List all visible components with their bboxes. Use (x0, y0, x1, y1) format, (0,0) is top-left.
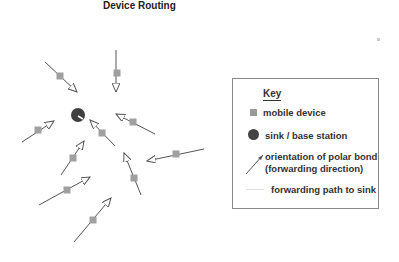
legend: Key mobile device sink / base station or… (232, 78, 379, 209)
mobile-device-icon (99, 130, 106, 137)
legend-label-orientation-sub: (forwarding direction) (265, 163, 363, 175)
legend-heading: Key (263, 88, 281, 101)
mobile-device-icon (64, 187, 71, 194)
mobile-devices (22, 50, 204, 242)
mobile-device-icon (90, 217, 97, 224)
legend-label-orientation: orientation of polar bond (265, 151, 377, 163)
mobile-device (61, 141, 84, 175)
mobile-device (114, 50, 121, 92)
legend-label-sink: sink / base station (265, 130, 347, 142)
circle-icon (248, 129, 259, 140)
mobile-device (147, 149, 204, 161)
line-icon (246, 189, 264, 190)
mobile-device-icon (35, 127, 42, 134)
mobile-device-icon (114, 70, 121, 77)
mobile-device-icon (131, 175, 138, 182)
mobile-device-icon (70, 155, 77, 162)
mobile-device (90, 120, 115, 146)
mobile-device-icon (173, 151, 180, 158)
mobile-device (39, 177, 90, 205)
sink-icon (71, 108, 85, 122)
mobile-device (22, 121, 54, 142)
mobile-device (45, 62, 77, 92)
square-icon (250, 109, 257, 116)
mobile-device (124, 153, 141, 195)
arrow-icon (244, 152, 266, 176)
mobile-device (74, 198, 111, 242)
stray-device-icon (377, 38, 380, 41)
mobile-device-icon (57, 73, 64, 80)
polar-bond-arrow-icon (124, 153, 141, 195)
mobile-device (116, 114, 155, 134)
legend-label-mobile: mobile device (263, 107, 326, 119)
legend-label-path: forwarding path to sink (271, 184, 376, 196)
mobile-device-icon (130, 119, 137, 126)
